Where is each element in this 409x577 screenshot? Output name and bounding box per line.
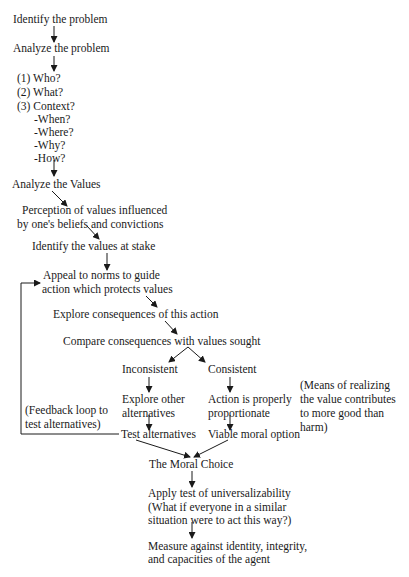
question-how: -How?: [34, 152, 65, 166]
annotation-feedback-line1: (Feedback loop to: [25, 404, 108, 418]
question-context: (3) Context?: [17, 100, 75, 114]
node-identify-problem: Identify the problem: [13, 13, 108, 27]
node-perception-line2: by one's beliefs and convictions: [17, 218, 163, 232]
node-analyze-problem: Analyze the problem: [13, 42, 109, 56]
question-why: -Why?: [34, 139, 65, 153]
annotation-feedback-line2: test alternatives): [25, 418, 101, 432]
node-universal-line3: situation were to act this way?): [148, 514, 291, 528]
node-universal-line1: Apply test of universalizability: [148, 487, 291, 501]
node-inconsistent: Inconsistent: [122, 363, 178, 377]
node-explore-other-line2: alternatives: [122, 407, 175, 421]
node-explore-consequences: Explore consequences of this action: [53, 308, 218, 322]
node-viable-option: Viable moral option: [208, 428, 300, 442]
question-what: (2) What?: [17, 86, 63, 100]
node-appeal-line1: Appeal to norms to guide: [43, 269, 160, 283]
node-consistent: Consistent: [208, 363, 257, 377]
annotation-means-line4: harm): [300, 421, 327, 435]
node-compare: Compare consequences with values sought: [63, 335, 260, 349]
node-measure-line2: and capacities of the agent: [148, 553, 270, 567]
annotation-means-line1: (Means of realizing: [300, 379, 390, 393]
node-proportionate-line2: proportionate: [208, 407, 270, 421]
node-proportionate-line1: Action is properly: [208, 393, 292, 407]
node-appeal-line2: action which protects values: [42, 283, 173, 297]
annotation-means-line2: the value contributes: [300, 393, 396, 407]
node-measure-line1: Measure against identity, integrity,: [148, 540, 307, 554]
question-when: -When?: [34, 113, 70, 127]
node-explore-other-line1: Explore other: [122, 393, 185, 407]
node-perception-line1: Perception of values influenced: [22, 204, 167, 218]
node-identify-values: Identify the values at stake: [32, 240, 155, 254]
node-analyze-values: Analyze the Values: [12, 178, 101, 192]
node-test-alternatives: Test alternatives: [121, 428, 196, 442]
question-who: (1) Who?: [17, 72, 61, 86]
question-where: -Where?: [34, 126, 74, 140]
node-moral-choice: The Moral Choice: [149, 458, 233, 472]
node-universal-line2: (What if everyone in a similar: [148, 501, 286, 515]
annotation-means-line3: to more good than: [300, 407, 384, 421]
